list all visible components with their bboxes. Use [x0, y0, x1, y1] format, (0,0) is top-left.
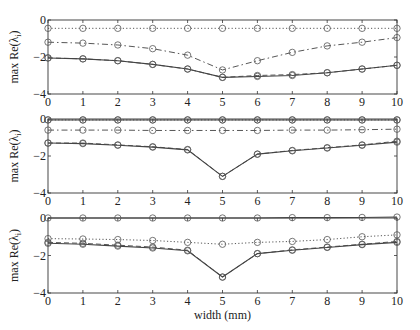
x-tick-label: 10 [391, 95, 403, 109]
x-tick-label: 4 [185, 95, 191, 109]
y-tick-label: −2 [33, 149, 46, 163]
x-tick-label: 6 [254, 194, 260, 208]
x-tick-label: 4 [185, 294, 191, 308]
x-tick-label: 10 [391, 294, 403, 308]
x-tick-label: 9 [359, 294, 365, 308]
y-axis-label: max Re(λi) [7, 129, 23, 182]
panel-middle: 0123456789100−2−4max Re(λi) [7, 112, 403, 208]
x-tick-label: 4 [185, 194, 191, 208]
y-tick-label: −4 [33, 87, 46, 101]
axes-frame [48, 218, 397, 293]
x-tick-label: 8 [324, 194, 330, 208]
y-tick-label: −4 [33, 186, 46, 200]
x-tick-label: 5 [220, 194, 226, 208]
x-tick-label: 3 [150, 294, 156, 308]
x-tick-label: 8 [324, 294, 330, 308]
series-solid [48, 142, 397, 176]
y-tick-label: −2 [33, 249, 46, 263]
figure: 0123456789100−2−4max Re(λi)0123456789100… [0, 0, 420, 330]
series-dashed [48, 241, 397, 277]
x-tick-label: 7 [289, 194, 295, 208]
x-tick-label: 3 [150, 95, 156, 109]
x-axis-label: width (mm) [194, 308, 251, 322]
x-tick-label: 7 [289, 95, 295, 109]
x-tick-label: 9 [359, 95, 365, 109]
x-tick-label: 2 [115, 194, 121, 208]
x-tick-label: 1 [80, 294, 86, 308]
x-tick-label: 5 [220, 95, 226, 109]
axes-frame [48, 20, 397, 94]
x-tick-label: 5 [220, 294, 226, 308]
series-dash-dot [48, 38, 397, 70]
y-tick-label: 0 [40, 13, 46, 27]
y-axis-label: max Re(λi) [7, 229, 23, 282]
x-tick-label: 7 [289, 294, 295, 308]
x-tick-label: 2 [115, 95, 121, 109]
x-tick-label: 6 [254, 294, 260, 308]
y-tick-label: −4 [33, 286, 46, 300]
series-dash-dot [48, 129, 397, 130]
x-tick-label: 6 [254, 95, 260, 109]
data-marker [254, 58, 260, 64]
panel-top: 0123456789100−2−4max Re(λi) [7, 13, 403, 109]
x-tick-label: 2 [115, 294, 121, 308]
x-tick-label: 10 [391, 194, 403, 208]
y-axis-label: max Re(λi) [7, 30, 23, 83]
y-tick-label: −2 [33, 50, 46, 64]
panel-bottom: 0123456789100−2−4max Re(λi)width (mm) [7, 211, 403, 322]
series-solid-top [48, 217, 397, 218]
axes-frame [48, 119, 397, 193]
x-tick-label: 1 [80, 95, 86, 109]
x-tick-label: 1 [80, 194, 86, 208]
x-tick-label: 8 [324, 95, 330, 109]
x-tick-label: 9 [359, 194, 365, 208]
series-dotted [48, 235, 397, 244]
x-tick-label: 3 [150, 194, 156, 208]
